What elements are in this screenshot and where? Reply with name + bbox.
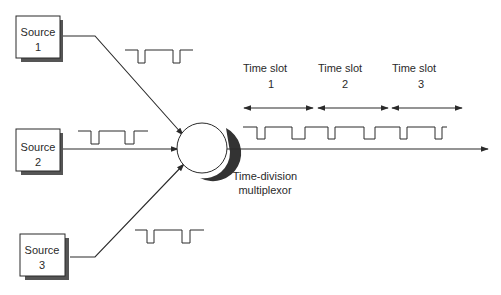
- output-waveform: [243, 127, 447, 139]
- source-1-number: 1: [35, 41, 41, 53]
- time-slot-2-label: Time slot: [318, 62, 362, 74]
- source-2-label: Source: [21, 141, 56, 153]
- source-3-waveform: [135, 230, 204, 243]
- time-slot-1-label: Time slot: [243, 62, 287, 74]
- source-2-waveform: [78, 131, 148, 144]
- source-3-box: Source 3: [20, 234, 69, 280]
- multiplexor-label-2: multiplexor: [238, 184, 292, 196]
- time-slot-1-number: 1: [268, 78, 274, 90]
- source-3-number: 3: [39, 259, 45, 271]
- source-1-waveform: [125, 50, 193, 63]
- source-1-box: Source 1: [16, 16, 63, 62]
- source-3-link: [70, 164, 184, 257]
- source-2-number: 2: [35, 156, 41, 168]
- tdm-diagram: Source 1 Source 2 Source 3 Time-division…: [0, 0, 501, 295]
- source-1-label: Source: [21, 26, 56, 38]
- multiplexor-circle: [177, 123, 241, 181]
- time-slot-3-number: 3: [418, 78, 424, 90]
- source-3-label: Source: [25, 244, 60, 256]
- multiplexor-label: Time-division: [233, 170, 297, 182]
- source-1-link: [63, 36, 183, 135]
- time-slot-3-label: Time slot: [392, 62, 436, 74]
- source-2-box: Source 2: [16, 129, 63, 175]
- time-slot-2-number: 2: [342, 78, 348, 90]
